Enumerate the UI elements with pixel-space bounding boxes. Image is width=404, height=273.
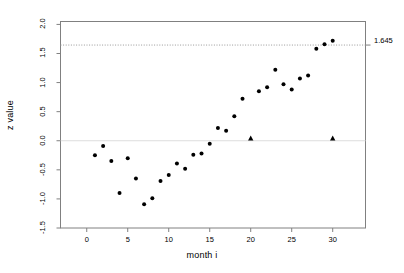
- data-point: [331, 39, 335, 43]
- data-point: [150, 196, 154, 200]
- annotation-lines: [61, 45, 371, 141]
- chart-container: month i z value 1.645 051015202530 -1.5-…: [0, 0, 404, 273]
- data-point: [167, 173, 171, 177]
- series-0: [93, 39, 335, 206]
- plot-frame: [61, 22, 366, 229]
- data-point: [224, 129, 228, 133]
- data-point: [314, 47, 318, 51]
- data-point: [216, 126, 220, 130]
- y-axis-title: z value: [5, 65, 15, 165]
- y-tick-label-2: -0.5: [37, 157, 46, 181]
- data-point: [330, 136, 335, 141]
- data-point: [298, 77, 302, 81]
- x-tick-label-4: 20: [241, 235, 261, 244]
- data-points: [93, 39, 335, 206]
- scatter-plot-canvas: [0, 0, 404, 273]
- data-point: [101, 144, 105, 148]
- y-tick-label-1: -1.0: [37, 186, 46, 210]
- data-point: [241, 97, 245, 101]
- data-point: [93, 153, 97, 157]
- data-point: [257, 89, 261, 93]
- axis-ticks: [57, 24, 333, 232]
- threshold-value-label: 1.645: [374, 36, 393, 45]
- data-point: [175, 161, 179, 165]
- x-axis-title: month i: [0, 250, 404, 260]
- x-tick-label-6: 30: [323, 235, 343, 244]
- x-tick-label-2: 10: [159, 235, 179, 244]
- data-point: [208, 142, 212, 146]
- data-point: [126, 156, 130, 160]
- x-tick-label-1: 5: [118, 235, 138, 244]
- y-tick-label-6: 1.5: [37, 41, 46, 65]
- data-point: [142, 202, 146, 206]
- data-point: [290, 88, 294, 92]
- series-1: [248, 136, 335, 141]
- data-point: [200, 152, 204, 156]
- data-point: [191, 153, 195, 157]
- x-tick-label-0: 0: [77, 235, 97, 244]
- data-point: [265, 85, 269, 89]
- data-point: [248, 136, 253, 141]
- data-point: [273, 68, 277, 72]
- y-tick-label-0: -1.5: [37, 216, 46, 240]
- data-point: [109, 159, 113, 163]
- y-tick-label-5: 1.0: [37, 70, 46, 94]
- y-tick-label-3: 0.0: [37, 128, 46, 152]
- x-tick-label-5: 25: [282, 235, 302, 244]
- x-tick-label-3: 15: [200, 235, 220, 244]
- data-point: [306, 74, 310, 78]
- data-point: [118, 191, 122, 195]
- data-point: [183, 167, 187, 171]
- y-tick-label-7: 2.0: [37, 12, 46, 36]
- data-point: [159, 179, 163, 183]
- data-point: [323, 42, 327, 46]
- y-tick-label-4: 0.5: [37, 99, 46, 123]
- data-point: [134, 177, 138, 181]
- data-point: [282, 82, 286, 86]
- data-point: [232, 114, 236, 118]
